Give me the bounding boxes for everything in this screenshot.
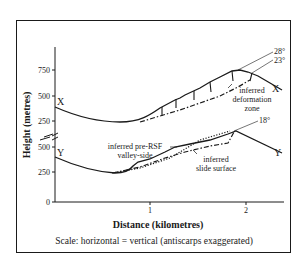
profile-y bbox=[55, 121, 282, 173]
pre-rsf-line1: inferred pre-RSF bbox=[108, 142, 163, 151]
x-axis-label: Distance (kilometres) bbox=[113, 219, 204, 231]
y-tick-500-lower: 500 bbox=[38, 143, 50, 152]
deformation-zone-line1: inferred bbox=[239, 86, 264, 95]
angle-23: 23° bbox=[274, 56, 285, 65]
slide-surface-line1: inferred bbox=[203, 155, 228, 164]
profile-y-end-label: Y bbox=[274, 147, 281, 158]
profile-x-end-label: X bbox=[272, 83, 280, 94]
y-tick-500-upper: 500 bbox=[38, 92, 50, 101]
pre-rsf-line2: valley-side bbox=[117, 151, 153, 160]
axis-break-icon bbox=[40, 134, 53, 140]
y-tick-0: 0 bbox=[46, 198, 50, 207]
profile-y-start-label: Y bbox=[57, 147, 64, 158]
profile-x-start-label: X bbox=[57, 96, 65, 107]
y-tick-750: 750 bbox=[38, 66, 50, 75]
y-axis-label: Height (metres) bbox=[21, 92, 33, 159]
x-tick-2: 2 bbox=[244, 206, 248, 215]
angle-18: 18° bbox=[259, 116, 270, 125]
slide-surface-line2: slide surface bbox=[196, 164, 237, 173]
y-tick-250-lower: 250 bbox=[38, 168, 50, 177]
axes bbox=[40, 47, 284, 205]
y-tick-250-upper: 250 bbox=[38, 117, 50, 126]
figure-caption: Scale: horizontal = vertical (antiscarps… bbox=[55, 236, 253, 247]
profile-diagram: 750 500 250 500 250 0 1 2 Height (metres… bbox=[0, 0, 307, 264]
x-tick-1: 1 bbox=[148, 206, 152, 215]
angle-28: 28° bbox=[274, 47, 285, 56]
deformation-zone-line3: zone bbox=[244, 104, 260, 113]
deformation-zone-line2: deformation bbox=[232, 95, 271, 104]
